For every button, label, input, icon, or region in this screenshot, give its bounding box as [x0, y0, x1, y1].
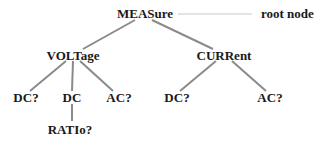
node-voltage: VOLTage — [47, 49, 100, 62]
node-voltage-dc-query: DC? — [13, 91, 38, 104]
node-voltage-ac-query: AC? — [106, 91, 131, 104]
edge-current-dcq — [180, 61, 216, 91]
edge-measure-voltage — [83, 20, 135, 49]
edge-measure-current — [152, 20, 213, 49]
node-current-dc-query: DC? — [164, 91, 189, 104]
edge-voltage-dcq — [30, 61, 66, 91]
node-voltage-dc: DC — [63, 91, 82, 104]
edge-current-acq — [232, 61, 266, 91]
node-current: CURRent — [197, 49, 252, 62]
edge-voltage-dc — [72, 61, 73, 91]
node-ratio-query: RATIo? — [48, 123, 93, 136]
node-measure: MEASure — [117, 7, 173, 20]
node-current-ac-query: AC? — [257, 91, 282, 104]
edge-voltage-acq — [80, 61, 113, 91]
root-node-annotation: root node — [261, 7, 314, 20]
